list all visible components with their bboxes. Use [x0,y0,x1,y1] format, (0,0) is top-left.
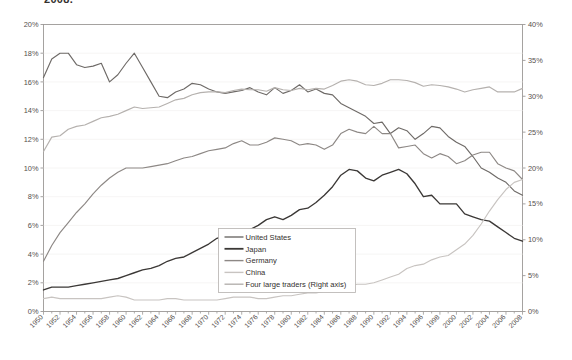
x-axis-tick-label: 1986 [326,313,342,329]
x-axis-tick-label: 1976 [243,313,259,329]
right-axis-tick-label: 25% [528,128,543,137]
x-axis-tick-label: 2006 [491,313,507,329]
x-axis-tick-label: 1992 [375,313,391,329]
x-axis-tick-label: 1964 [144,313,160,329]
legend-label-germany: Germany [246,256,277,265]
right-axis-tick-label: 35% [528,56,543,65]
left-axis-tick-label: 18% [24,49,39,58]
right-axis-tick-label: 30% [528,92,543,101]
right-axis-tick-label: 0% [528,307,539,316]
x-axis-tick-label: 1988 [342,313,358,329]
chart-figure: 2008. 0%2%4%6%8%10%12%14%16%18%20%0%5%10… [0,0,572,360]
x-axis-tick-label: 1996 [408,313,424,329]
legend-label-japan: Japan [246,245,267,254]
left-axis-tick-label: 12% [24,135,39,144]
right-axis-tick-label: 15% [528,199,543,208]
right-axis-tick-label: 40% [528,20,543,29]
x-axis-tick-label: 1982 [293,313,309,329]
x-axis-tick-label: 1978 [259,313,275,329]
x-axis-tick-label: 2004 [474,313,490,329]
x-axis-tick-label: 1994 [392,313,408,329]
x-axis-tick-label: 1954 [61,313,77,329]
left-axis-tick-label: 14% [24,106,39,115]
x-axis-tick-label: 1956 [78,313,94,329]
left-axis-tick-label: 2% [28,278,39,287]
x-axis-tick-label: 1980 [276,313,292,329]
x-axis-tick-label: 1966 [160,313,176,329]
chart-plot: 0%2%4%6%8%10%12%14%16%18%20%0%5%10%15%20… [0,0,572,360]
x-axis-tick-label: 1952 [45,313,61,329]
x-axis-tick-label: 1972 [210,313,226,329]
x-axis-tick-label: 1958 [94,313,110,329]
x-axis-tick-label: 1984 [309,313,325,329]
legend-label-united-states: United States [246,233,292,242]
left-axis-tick-label: 10% [24,164,39,173]
x-axis-tick-label: 1960 [111,313,127,329]
legend-label-four-large-traders-right-axis: Four large traders (Right axis) [246,280,347,289]
x-axis-tick-label: 1970 [193,313,209,329]
x-axis-tick-label: 1974 [226,313,242,329]
left-axis-tick-label: 4% [28,250,39,259]
x-axis-tick-label: 1968 [177,313,193,329]
left-axis-tick-label: 20% [24,20,39,29]
right-axis-tick-label: 20% [528,164,543,173]
left-axis-tick-label: 16% [24,78,39,87]
x-axis-tick-label: 1990 [359,313,375,329]
right-axis-tick-label: 5% [528,271,539,280]
x-axis-tick-label: 2002 [458,313,474,329]
x-axis-tick-label: 2000 [441,313,457,329]
legend-label-china: China [246,268,267,277]
left-axis-tick-label: 8% [28,192,39,201]
x-axis-tick-label: 1998 [425,313,441,329]
x-axis-tick-label: 2008 [507,313,523,329]
right-axis-tick-label: 10% [528,235,543,244]
x-axis-tick-label: 1962 [127,313,143,329]
left-axis-tick-label: 6% [28,221,39,230]
